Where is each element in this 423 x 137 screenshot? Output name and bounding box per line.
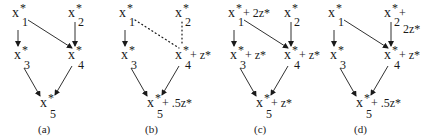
node-subscript: 5 — [266, 108, 272, 120]
node-var: x — [175, 5, 182, 20]
node-subscript: 5 — [50, 108, 56, 120]
node-star: * — [76, 43, 82, 57]
edge-x4-x5 — [162, 66, 179, 95]
node-star: * — [236, 1, 242, 15]
edge-x3-x5 — [240, 68, 256, 96]
edge-x4-x5 — [271, 66, 288, 95]
edge-x3-x5 — [131, 68, 147, 96]
panel-caption: (d) — [354, 123, 367, 135]
node-x3: x*+ z*3 — [230, 48, 266, 62]
node-extra: + z* — [399, 48, 420, 62]
node-subscript: 4 — [78, 59, 84, 71]
node-var: x — [330, 47, 337, 62]
node-x3: x*3 — [14, 48, 29, 62]
panel-caption: (a) — [38, 123, 50, 135]
node-x2: x*2 — [284, 6, 299, 20]
node-var: x — [175, 47, 182, 62]
node-extra: + — [399, 6, 406, 20]
node-subscript: 5 — [366, 108, 372, 120]
node-star: * — [338, 43, 344, 57]
node-var: x — [328, 5, 335, 20]
node-x4: x*+ z*4 — [384, 48, 420, 62]
node-extra-line2: 2z* — [403, 23, 420, 35]
node-extra: + 2z* — [243, 6, 270, 20]
node-star: * — [264, 91, 270, 105]
node-x2: x*2 — [68, 6, 83, 20]
node-star: * — [155, 91, 161, 105]
edge-x3-x5 — [340, 68, 356, 96]
node-x1: x*1 — [328, 6, 343, 20]
node-subscript: 3 — [131, 59, 137, 71]
node-subscript: 4 — [185, 59, 191, 71]
node-var: x — [40, 95, 47, 110]
node-x5: x*+ z*5 — [256, 96, 292, 110]
node-extra: + z* — [245, 48, 266, 62]
node-x5: x*5 — [40, 96, 55, 110]
node-subscript: 4 — [394, 59, 400, 71]
node-x3: x*3 — [330, 48, 345, 62]
node-subscript: 1 — [238, 16, 244, 28]
node-var: x — [121, 47, 128, 62]
node-subscript: 3 — [24, 59, 30, 71]
node-extra: + z* — [190, 48, 211, 62]
node-x3: x*3 — [121, 48, 136, 62]
edge-x3-x5 — [24, 68, 40, 96]
node-star: * — [336, 1, 342, 15]
node-var: x — [230, 47, 237, 62]
node-x4: x*+ z*4 — [175, 48, 211, 62]
node-star: * — [392, 43, 398, 57]
edge-x4-x5 — [371, 66, 388, 95]
node-star: * — [292, 1, 298, 15]
node-star: * — [238, 43, 244, 57]
node-subscript: 5 — [157, 108, 163, 120]
node-var: x — [14, 47, 21, 62]
node-x1: x*1 — [119, 6, 134, 20]
node-subscript: 1 — [22, 16, 28, 28]
node-var: x — [284, 5, 291, 20]
node-subscript: 3 — [240, 59, 246, 71]
edge-x1-x4 — [344, 20, 388, 48]
edge-x1-x4 — [135, 20, 179, 48]
node-star: * — [48, 91, 54, 105]
node-x4: x*+ z*4 — [284, 48, 320, 62]
node-extra: + z* — [271, 96, 292, 110]
node-star: * — [364, 91, 370, 105]
edge-x1-x4 — [28, 20, 72, 48]
node-star: * — [392, 1, 398, 15]
diagram-panel-d: x*1 x*+22z* x*3 x*+ z*4 x*+ .5z*5 (d) — [316, 0, 423, 137]
diagram-panel-a: x*1 x*2 x*3 x*4 x*5 (a) — [0, 0, 107, 137]
edge-x1-x4 — [244, 20, 288, 48]
node-var: x — [68, 5, 75, 20]
diagram-panel-c: x*+ 2z*1 x*2 x*+ z*3 x*+ z*4 x*+ z*5 (c) — [216, 0, 323, 137]
node-var: x — [256, 95, 263, 110]
node-star: * — [129, 43, 135, 57]
node-var: x — [284, 47, 291, 62]
node-star: * — [183, 1, 189, 15]
node-x2: x*+22z* — [384, 6, 406, 20]
node-star: * — [76, 1, 82, 15]
node-var: x — [384, 47, 391, 62]
node-var: x — [147, 95, 154, 110]
node-subscript: 1 — [338, 16, 344, 28]
node-var: x — [384, 5, 391, 20]
node-star: * — [20, 1, 26, 15]
node-subscript: 4 — [294, 59, 300, 71]
node-var: x — [228, 5, 235, 20]
node-star: * — [127, 1, 133, 15]
node-subscript: 2 — [394, 16, 400, 28]
node-var: x — [119, 5, 126, 20]
node-x1: x*1 — [12, 6, 27, 20]
node-x1: x*+ 2z*1 — [228, 6, 270, 20]
node-var: x — [12, 5, 19, 20]
panel-caption: (c) — [254, 123, 266, 135]
node-x5: x*+ .5z*5 — [356, 96, 401, 110]
node-x2: x*2 — [175, 6, 190, 20]
node-x5: x*+ .5z*5 — [147, 96, 192, 110]
node-x4: x*4 — [68, 48, 83, 62]
panel-caption: (b) — [145, 123, 158, 135]
node-star: * — [22, 43, 28, 57]
node-var: x — [356, 95, 363, 110]
node-subscript: 2 — [185, 16, 191, 28]
node-subscript: 3 — [340, 59, 346, 71]
node-extra: + .5z* — [371, 96, 401, 110]
